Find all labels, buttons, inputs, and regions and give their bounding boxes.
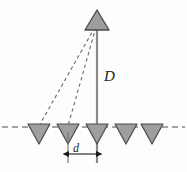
distance-label-D: D (104, 69, 115, 84)
ray-to-element-1 (68, 27, 96, 126)
ray-to-element-0 (39, 27, 95, 126)
ray-lines-group (39, 27, 96, 126)
array-element-triangle-3 (115, 124, 137, 144)
apex-triangle-up-icon (85, 10, 109, 30)
array-element-triangle-2 (86, 124, 108, 144)
array-element-triangle-4 (141, 124, 163, 144)
apex-triangle-group (85, 10, 109, 30)
figure-container: D d (0, 0, 187, 172)
array-elements-group (28, 124, 163, 144)
spacing-label-d: d (73, 142, 79, 154)
array-element-triangle-0 (28, 124, 50, 144)
diagram-canvas (0, 0, 187, 172)
